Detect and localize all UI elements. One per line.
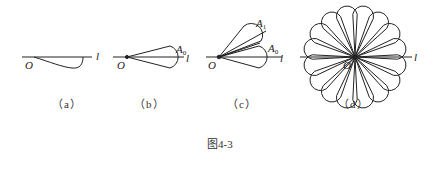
panel-c-origin-label: O — [208, 60, 216, 71]
panel-c-origin-dot — [217, 55, 221, 59]
panel-a-label: （a） — [52, 95, 82, 111]
panel-b-origin-label: O — [117, 60, 125, 71]
panel-b-label: （b） — [134, 95, 165, 111]
panel-a-origin-label: O — [25, 60, 33, 71]
panel-a-curve — [34, 57, 83, 68]
panel-a-ray-label: l — [96, 51, 99, 62]
panel-c-ray-label: l — [280, 53, 283, 64]
panel-b-ray-label: l — [186, 53, 189, 64]
panel-d-petal — [355, 57, 400, 91]
panel-d-petal — [321, 12, 355, 57]
panel-b-point-A0: A0 — [176, 44, 186, 57]
panel-d-petal — [355, 12, 389, 57]
panel-c-ray-A1 — [219, 31, 266, 57]
panel-c-point-A1: A1 — [256, 18, 266, 31]
panel-d-label: （d） — [338, 95, 369, 111]
panel-c-label: （c） — [227, 95, 257, 111]
panel-d-ray-label: l — [414, 52, 417, 63]
panel-b-origin-dot — [125, 55, 128, 58]
panel-d-origin-label: O — [343, 60, 351, 71]
panel-c-point-A0: A0 — [268, 43, 278, 56]
figure-caption: 图4-3 — [207, 135, 233, 151]
panel-d-origin-dot — [353, 55, 357, 59]
panel-d-petal — [355, 23, 400, 57]
panel-d-petal — [310, 23, 355, 57]
